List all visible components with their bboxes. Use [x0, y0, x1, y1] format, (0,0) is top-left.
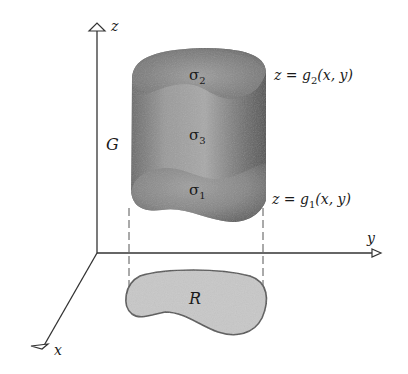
x-axis-arrow-icon [31, 344, 48, 349]
z-axis-label: z [110, 18, 119, 34]
z-axis-arrow-icon [89, 23, 105, 31]
y-axis-arrow-icon [372, 249, 381, 257]
svg-text:z = g1(x, y): z = g1(x, y) [271, 191, 351, 210]
x-axis-label: x [54, 342, 62, 358]
x-axis [31, 253, 97, 349]
equation-lower-surface: z = g1(x, y) [271, 191, 351, 210]
solid-region-diagram: z y x G σ2 σ3 σ1 z = g2(x, y) z = g1(x, … [0, 0, 408, 374]
z-axis [89, 23, 105, 253]
region-label-R: R [188, 289, 201, 308]
solid-label-G: G [106, 135, 119, 154]
y-axis-label: y [366, 230, 376, 246]
equation-upper-surface: z = g2(x, y) [273, 67, 353, 86]
svg-text:z = g2(x, y): z = g2(x, y) [273, 67, 353, 86]
y-axis [97, 249, 381, 257]
